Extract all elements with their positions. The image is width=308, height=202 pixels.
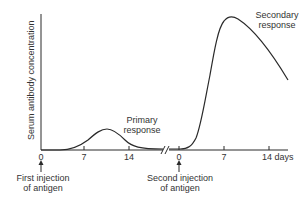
first-injection-label: First injection of antigen (8, 173, 78, 193)
second-injection-label: Second injection of antigen (140, 173, 220, 193)
tick-label: 0 (174, 152, 184, 162)
tick-label: 14 (122, 152, 136, 162)
tick-label: 0 (36, 152, 46, 162)
y-axis-label: Serum antibody concentration (26, 20, 36, 140)
primary-response-label: Primary response (117, 115, 167, 135)
antibody-response-chart (0, 0, 308, 202)
secondary-response-curve (169, 17, 288, 149)
tick-label: 7 (79, 152, 89, 162)
tick-label-days: 14 days (262, 152, 302, 162)
tick-label: 7 (219, 152, 229, 162)
secondary-response-label: Secondary response (248, 10, 306, 30)
